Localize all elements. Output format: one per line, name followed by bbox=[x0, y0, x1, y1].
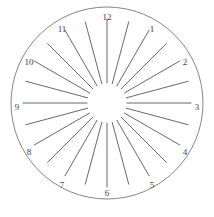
hour-label-3: 3 bbox=[195, 102, 200, 112]
clock-spoke bbox=[112, 22, 129, 84]
hour-label-10: 10 bbox=[25, 57, 35, 67]
hour-label-1: 1 bbox=[150, 24, 155, 34]
hour-label-2: 2 bbox=[183, 57, 188, 67]
clock-spoke bbox=[85, 122, 102, 184]
hour-label-7: 7 bbox=[60, 180, 65, 190]
clock-spoke bbox=[85, 22, 102, 84]
clock-face-diagram: 121234567891011 bbox=[0, 0, 214, 217]
clock-spoke bbox=[26, 108, 88, 125]
hour-label-4: 4 bbox=[183, 147, 188, 157]
hour-label-8: 8 bbox=[27, 147, 32, 157]
hour-label-11: 11 bbox=[58, 24, 67, 34]
clock-spoke bbox=[126, 81, 188, 98]
clock-spoke bbox=[26, 81, 88, 98]
hour-label-5: 5 bbox=[150, 180, 155, 190]
hour-label-12: 12 bbox=[103, 12, 112, 22]
clock-svg: 121234567891011 bbox=[0, 0, 214, 217]
hour-label-6: 6 bbox=[105, 188, 110, 198]
hour-label-9: 9 bbox=[15, 102, 20, 112]
spoke-group bbox=[23, 19, 191, 187]
clock-spoke bbox=[112, 122, 129, 184]
clock-spoke bbox=[126, 108, 188, 125]
